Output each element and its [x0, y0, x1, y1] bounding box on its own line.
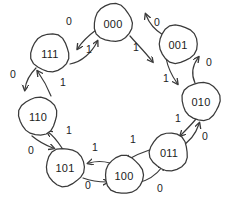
transition-label-010-to-001: 0 — [206, 56, 212, 68]
state-node-110[interactable]: 110 — [19, 97, 57, 135]
transition-label-011-to-010: 0 — [202, 130, 208, 142]
transition-label-100-to-101: 1 — [92, 141, 98, 153]
transition-label-110-to-101: 0 — [28, 144, 34, 156]
transition-arrow-010-to-011 — [181, 119, 196, 135]
transition-label-001-to-000: 0 — [154, 16, 160, 28]
state-label-001: 001 — [169, 39, 188, 51]
transition-arrow-100-to-101 — [89, 162, 110, 164]
transition-label-101-to-110: 1 — [66, 124, 72, 136]
state-diagram-canvas: 000001010011100101110111 010101101010100… — [0, 0, 230, 207]
state-label-011: 011 — [160, 147, 178, 159]
transition-arrow-110-to-111 — [38, 72, 51, 96]
transition-arrow-010-to-001 — [193, 58, 198, 83]
state-label-010: 010 — [192, 96, 211, 108]
transition-label-101-to-100: 0 — [85, 179, 91, 191]
state-label-110: 110 — [29, 111, 47, 123]
state-node-000[interactable]: 000 — [94, 3, 132, 41]
state-node-001[interactable]: 001 — [159, 25, 197, 64]
state-label-000: 000 — [104, 18, 123, 30]
state-node-011[interactable]: 011 — [149, 133, 187, 171]
transition-label-000-to-111: 0 — [66, 15, 72, 27]
state-node-111[interactable]: 111 — [31, 34, 69, 72]
transition-label-001-to-010: 1 — [163, 72, 169, 84]
transition-arrow-111-to-000 — [70, 42, 97, 64]
transition-label-000-to-010: 1 — [133, 41, 139, 53]
transition-arrow-111-to-110 — [25, 68, 36, 89]
state-label-111: 111 — [41, 48, 58, 60]
state-node-010[interactable]: 010 — [182, 82, 220, 120]
state-node-101[interactable]: 101 — [46, 149, 84, 187]
transition-label-111-to-110: 0 — [10, 68, 16, 80]
transition-label-100-to-011: 0 — [157, 182, 163, 194]
transition-label-011-to-100: 1 — [130, 133, 136, 145]
states-layer: 000001010011100101110111 — [19, 3, 221, 193]
transition-label-110-to-111: 1 — [60, 76, 66, 88]
transition-arrow-101-to-110 — [48, 132, 62, 148]
state-label-100: 100 — [115, 170, 134, 182]
transition-label-111-to-000: 1 — [86, 43, 92, 55]
transition-label-010-to-011: 1 — [175, 112, 181, 124]
transition-arrow-110-to-101 — [32, 136, 53, 148]
state-node-100[interactable]: 100 — [106, 155, 144, 193]
state-label-101: 101 — [56, 162, 75, 174]
state-diagram-figure: 000001010011100101110111 010101101010100… — [0, 0, 230, 207]
